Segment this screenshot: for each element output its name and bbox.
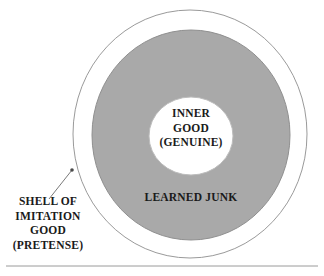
- inner-good-label-line-2: GOOD: [151, 121, 231, 136]
- shell-label-line-2: IMITATION: [0, 209, 96, 224]
- inner-good-label-line-3: (GENUINE): [151, 135, 231, 150]
- learned-junk-label: LEARNED JUNK: [123, 190, 259, 204]
- learned-junk-label-line-1: LEARNED JUNK: [123, 190, 259, 204]
- shell-label-line-4: (PRETENSE): [0, 238, 96, 253]
- inner-good-label-line-1: INNER: [151, 106, 231, 121]
- inner-good-label: INNER GOOD (GENUINE): [151, 106, 231, 150]
- concentric-circles-diagram: INNER GOOD (GENUINE) LEARNED JUNK SHELL …: [0, 0, 324, 276]
- shell-label-line-1: SHELL OF: [0, 194, 96, 209]
- shell-label-line-3: GOOD: [0, 223, 96, 238]
- shell-of-imitation-good-label: SHELL OF IMITATION GOOD (PRETENSE): [0, 194, 96, 252]
- shell-leader-dot: [70, 168, 74, 172]
